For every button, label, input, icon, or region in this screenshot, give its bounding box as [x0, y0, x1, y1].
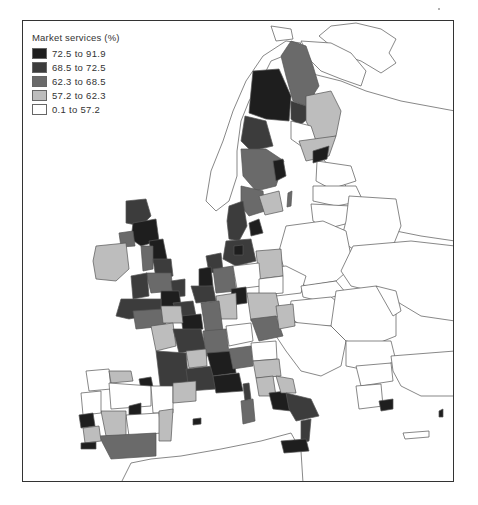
legend-label: 57.2 to 62.3 [52, 90, 106, 101]
region-it-north-west [229, 346, 253, 369]
legend-label: 62.3 to 68.5 [52, 76, 106, 87]
region-it-sicily [281, 439, 309, 453]
region-uk-north-west [141, 246, 153, 271]
region-uk-wales [131, 273, 149, 299]
region-ireland [93, 243, 129, 281]
region-dk-zealand [249, 219, 263, 236]
region-es-castilla-leon [109, 383, 151, 409]
region-ch [226, 323, 253, 346]
region-de-central [233, 263, 261, 289]
region-es-asturias [109, 371, 133, 383]
region-fr-provence [213, 373, 243, 393]
stray-dot [438, 8, 440, 10]
legend-swatch-class-5 [32, 104, 47, 115]
region-es-valencia [159, 409, 173, 441]
region-dk-jutland [227, 201, 247, 241]
region-pt-alentejo [83, 426, 101, 443]
region-fr-paris [181, 314, 203, 331]
region-fr-loire [151, 323, 176, 351]
region-uk-midlands [146, 273, 173, 293]
region-iceland-islet [271, 26, 293, 41]
legend-item: 62.3 to 68.5 [32, 74, 120, 88]
region-turkey [391, 351, 454, 396]
region-se-north-middle [241, 116, 273, 151]
region-se-north [249, 69, 291, 121]
region-es-balearics [193, 418, 201, 425]
region-it-adriatic [276, 376, 296, 393]
region-gr-attica [379, 399, 393, 411]
region-gr-north [356, 363, 393, 386]
legend-label: 68.5 to 72.5 [52, 62, 106, 73]
legend-label: 72.5 to 91.9 [52, 48, 106, 59]
region-nl-west [199, 267, 213, 287]
region-es-andalusia [99, 433, 156, 459]
legend-swatch-class-1 [32, 48, 47, 59]
region-de-saxony [259, 276, 283, 295]
region-es-extremadura [101, 411, 126, 436]
region-gr-rhodes [439, 409, 443, 417]
legend-swatch-class-4 [32, 90, 47, 101]
region-fr-auvergne [186, 349, 207, 368]
legend-swatch-class-3 [32, 76, 47, 87]
region-es-castilla-mancha [126, 413, 161, 436]
region-gr-crete [403, 431, 429, 439]
legend-swatch-class-2 [32, 62, 47, 73]
legend-item: 57.2 to 62.3 [32, 88, 120, 102]
region-es-aragon [151, 386, 173, 413]
region-it-lombardy [251, 341, 277, 361]
legend-label: 0.1 to 57.2 [52, 104, 100, 115]
region-pt-algarve [81, 442, 96, 449]
map-legend: Market services (%) 72.5 to 91.9 68.5 to… [32, 32, 120, 116]
region-pt-north [81, 391, 101, 415]
region-de-hamburg [234, 245, 243, 255]
legend-item: 72.5 to 91.9 [32, 46, 120, 60]
region-at-east [276, 304, 295, 329]
legend-title: Market services (%) [32, 32, 120, 43]
region-fr-corsica [243, 383, 251, 401]
region-gr-central [356, 384, 383, 409]
region-it-south [286, 393, 319, 421]
legend-item: 68.5 to 72.5 [32, 60, 120, 74]
region-es-galicia [86, 369, 111, 391]
region-be [191, 286, 216, 303]
region-fr-normandy [161, 306, 183, 323]
legend-item: 0.1 to 57.2 [32, 102, 120, 116]
region-it-emilia [253, 359, 281, 378]
region-es-catalonia [173, 381, 196, 403]
region-it-sardinia [241, 399, 255, 424]
region-pt-lisbon [79, 413, 95, 428]
region-se-gotland [287, 191, 292, 207]
